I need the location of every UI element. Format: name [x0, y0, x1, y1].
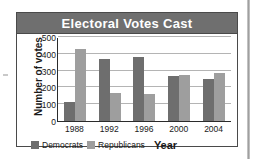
y-tick-400: 400 [42, 50, 56, 60]
x-tick-2004: 2004 [196, 124, 231, 134]
bar-democrats-1988 [64, 102, 75, 121]
page-margin-tick [3, 74, 8, 76]
legend-label-democrats: Democrats [42, 140, 83, 150]
gridline-500 [58, 36, 231, 37]
x-tick-1996: 1996 [127, 124, 162, 134]
chart-title: Electoral Votes Cast [62, 16, 193, 31]
legend-item-republicans: Republicans [87, 140, 145, 150]
y-tick-100: 100 [42, 100, 56, 110]
chart-legend: Democrats Republicans Year [31, 139, 231, 151]
bar-republicans-1996 [144, 94, 155, 121]
chart-figure: Electoral Votes Cast Number of votes 010… [16, 12, 238, 147]
bar-group-1992 [99, 38, 121, 121]
y-axis-label-wrap: Number of votes [21, 38, 36, 122]
bar-democrats-1992 [99, 59, 110, 121]
bar-democrats-2004 [203, 79, 214, 121]
bar-group-1988 [64, 38, 86, 121]
x-tick-2000: 2000 [161, 124, 196, 134]
chart-title-bar: Electoral Votes Cast [17, 13, 237, 34]
legend-swatch-democrats [31, 141, 39, 149]
bar-series-container [58, 38, 231, 121]
plot-canvas [57, 38, 231, 122]
x-tick-1992: 1992 [92, 124, 127, 134]
y-tick-500: 500 [42, 33, 56, 43]
legend-swatch-republicans [87, 141, 95, 149]
y-axis-tick-labels: 0100200300400500 [36, 38, 57, 122]
bar-group-1996 [133, 38, 155, 121]
plot-canvas-wrap [57, 38, 231, 122]
chart-body: Number of votes 0100200300400500 1988199… [17, 34, 237, 151]
x-axis-tick-labels: 19881992199620002004 [57, 124, 231, 134]
bar-republicans-1992 [110, 93, 121, 121]
x-tick-1988: 1988 [57, 124, 92, 134]
bar-republicans-2004 [214, 73, 225, 121]
page-edge-rule [247, 0, 250, 159]
bar-group-2004 [203, 38, 225, 121]
bar-republicans-1988 [75, 49, 86, 121]
legend-item-democrats: Democrats [31, 140, 83, 150]
bar-republicans-2000 [179, 75, 190, 121]
x-axis-label: Year [154, 139, 177, 151]
y-tick-300: 300 [42, 67, 56, 77]
bar-democrats-2000 [168, 76, 179, 121]
bar-democrats-1996 [133, 57, 144, 121]
y-tick-0: 0 [51, 117, 56, 127]
bar-group-2000 [168, 38, 190, 121]
y-tick-200: 200 [42, 83, 56, 93]
plot-area: Number of votes 0100200300400500 [21, 38, 231, 122]
legend-label-republicans: Republicans [98, 140, 145, 150]
